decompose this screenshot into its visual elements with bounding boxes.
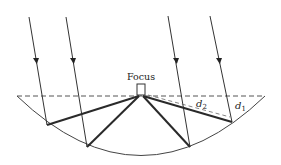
- focus-receiver-box: [137, 84, 145, 95]
- parabolic-mirror: [17, 96, 265, 156]
- arrow-down-icon: [216, 58, 222, 64]
- parabolic-reflector-diagram: Focus d2 d1: [0, 0, 281, 165]
- d1-label: d1: [235, 100, 246, 113]
- arrow-down-icon: [33, 58, 39, 64]
- reflected-ray-4: [143, 96, 232, 122]
- incoming-ray-2: [66, 17, 87, 147]
- focus-label: Focus: [127, 71, 155, 82]
- incoming-ray-4: [210, 16, 232, 122]
- d2-label: d2: [196, 98, 207, 111]
